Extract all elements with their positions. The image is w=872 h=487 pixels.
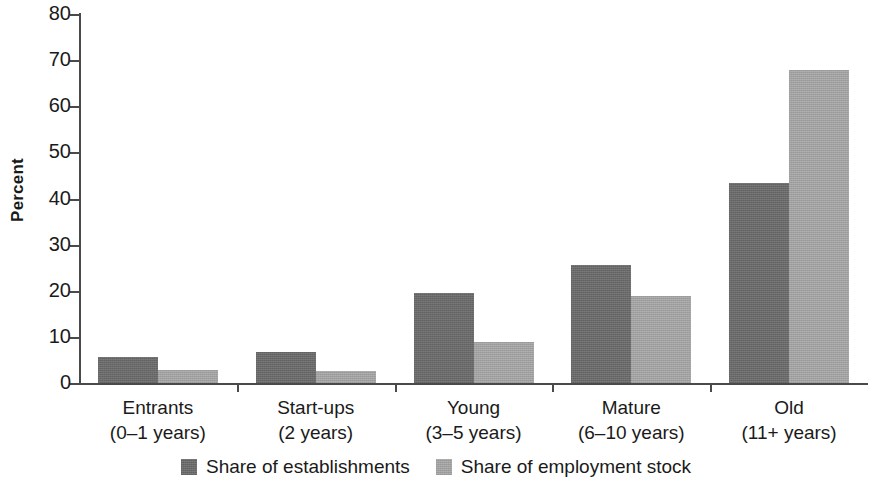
y-tick-mark [70, 14, 79, 16]
category-age-range: (6–10 years) [552, 420, 710, 445]
bar-old-series-2 [789, 70, 849, 383]
x-axis-label-entrants: Entrants(0–1 years) [79, 395, 237, 445]
y-tick-mark [70, 152, 79, 154]
y-tick-label: 70 [49, 48, 71, 70]
category-age-range: (2 years) [237, 420, 395, 445]
plot-area [79, 14, 868, 383]
category-age-range: (3–5 years) [395, 420, 553, 445]
y-tick-mark [70, 60, 79, 62]
x-axis-separator-tick [237, 383, 239, 392]
bar-start-ups-series-1 [256, 352, 316, 383]
x-axis-line [79, 383, 868, 385]
x-axis-separator-tick [552, 383, 554, 392]
bar-entrants-series-2 [158, 370, 218, 383]
bar-start-ups-series-2 [316, 371, 376, 383]
bar-young-series-2 [474, 342, 534, 383]
legend-label: Share of employment stock [461, 455, 691, 479]
bar-chart: Percent 80706050403020100 Entrants(0–1 y… [0, 0, 872, 487]
category-age-range: (11+ years) [710, 420, 868, 445]
legend-item-1: Share of establishments [181, 455, 410, 479]
y-tick-mark [70, 245, 79, 247]
y-axis-title: Percent [8, 130, 28, 250]
category-name: Entrants [79, 395, 237, 420]
y-tick-label: 50 [49, 140, 71, 162]
bar-mature-series-1 [571, 265, 631, 383]
y-tick-label: 10 [49, 325, 71, 347]
y-tick-mark [70, 291, 79, 293]
y-tick-mark [70, 383, 79, 385]
y-tick-label: 30 [49, 233, 71, 255]
legend-swatch-icon [436, 459, 452, 475]
bar-young-series-1 [414, 293, 474, 383]
legend-swatch-icon [181, 459, 197, 475]
x-axis-label-young: Young(3–5 years) [395, 395, 553, 445]
y-tick-label: 0 [60, 371, 71, 393]
y-tick-mark [70, 337, 79, 339]
bar-old-series-1 [729, 183, 789, 383]
y-tick-mark [70, 199, 79, 201]
y-tick-label: 40 [49, 187, 71, 209]
y-tick-label: 80 [49, 2, 71, 24]
x-axis-label-old: Old(11+ years) [710, 395, 868, 445]
x-axis-separator-tick [395, 383, 397, 392]
category-age-range: (0–1 years) [79, 420, 237, 445]
bar-entrants-series-1 [98, 357, 158, 383]
y-tick-label: 20 [49, 279, 71, 301]
category-name: Mature [552, 395, 710, 420]
chart-legend: Share of establishmentsShare of employme… [0, 455, 872, 479]
legend-item-2: Share of employment stock [436, 455, 691, 479]
category-name: Start-ups [237, 395, 395, 420]
y-tick-mark [70, 106, 79, 108]
category-name: Young [395, 395, 553, 420]
legend-label: Share of establishments [206, 455, 410, 479]
x-axis-label-start-ups: Start-ups(2 years) [237, 395, 395, 445]
bar-mature-series-2 [631, 296, 691, 383]
y-tick-label: 60 [49, 94, 71, 116]
x-axis-label-mature: Mature(6–10 years) [552, 395, 710, 445]
category-name: Old [710, 395, 868, 420]
x-axis-separator-tick [710, 383, 712, 392]
